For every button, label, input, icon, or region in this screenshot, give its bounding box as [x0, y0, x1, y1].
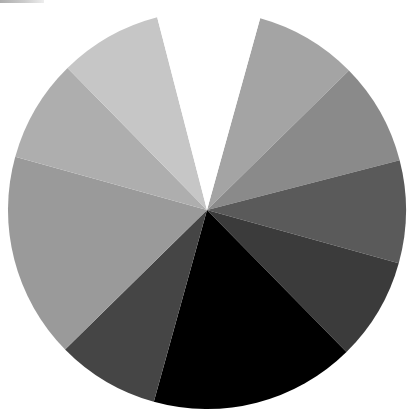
pie-chart — [0, 0, 410, 414]
